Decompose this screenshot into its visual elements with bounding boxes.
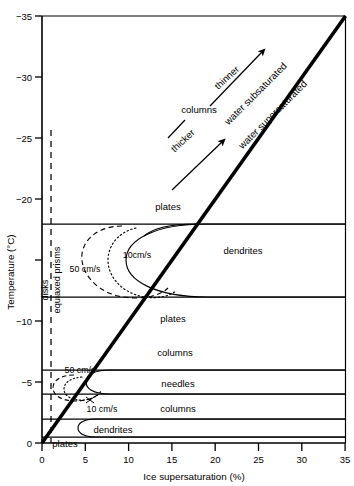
x-axis-title: Ice supersaturation (%) <box>143 471 244 482</box>
x-tick-label-15: 15 <box>167 454 178 465</box>
label-velocity-50-upper: 50 cm/s <box>70 264 101 274</box>
label-disks: disks <box>40 279 50 300</box>
label-columns-top: columns <box>181 104 217 115</box>
label-plates-mid: plates <box>160 313 186 324</box>
y-tick-label--25: −25 <box>16 133 32 144</box>
label-thicker: thicker <box>169 126 198 154</box>
plate-cap-upper <box>144 224 196 236</box>
chart-canvas: −35 −30 −25 −20 −10 −5 0 0 5 10 15 20 25 <box>0 0 354 486</box>
label-equiaxed-prisms: equiaxed prisms <box>52 246 62 313</box>
y-tick-label-0: 0 <box>27 438 32 449</box>
dendrite-lobe-upper <box>126 224 346 297</box>
label-dendrites-upper: dendrites <box>223 245 262 256</box>
label-plates-upper: plates <box>155 201 181 212</box>
label-velocity-10-lower: 10 cm/s <box>87 404 118 414</box>
label-columns-low: columns <box>160 403 196 414</box>
y-tick-label--30: −30 <box>16 72 32 83</box>
label-columns-mid: columns <box>157 347 193 358</box>
x-axis-ticks <box>42 443 345 451</box>
x-tick-label-30: 30 <box>297 454 308 465</box>
x-tick-label-20: 20 <box>210 454 221 465</box>
velocity-loops <box>53 226 176 403</box>
thickness-arrow <box>168 52 262 190</box>
velocity-loop-50-upper <box>82 226 168 298</box>
x-tick-label-35: 35 <box>340 454 351 465</box>
x-tick-label-5: 5 <box>83 454 88 465</box>
label-dendrites-low: dendrites <box>93 424 132 435</box>
y-tick-label--20: −20 <box>16 194 32 205</box>
label-plates-bottom: plates <box>52 438 78 449</box>
label-velocity-50-lower: 50 cm/s <box>65 365 96 375</box>
y-axis-ticks <box>35 16 42 443</box>
y-axis-title: Temperature (°C) <box>5 234 16 309</box>
snow-crystal-morphology-figure: −35 −30 −25 −20 −10 −5 0 0 5 10 15 20 25 <box>0 0 354 486</box>
label-velocity-10-upper: 10cm/s <box>123 250 152 260</box>
label-water-supersaturated: water supersaturated <box>235 78 309 152</box>
needle-lobe <box>86 370 346 394</box>
y-tick-label--10: −10 <box>16 316 32 327</box>
velocity-loop-10-upper <box>108 228 176 298</box>
habit-lobe-outlines <box>78 224 346 437</box>
y-axis-tick-labels: −35 −30 −25 −20 −10 −5 0 <box>16 11 32 449</box>
x-tick-label-25: 25 <box>253 454 264 465</box>
y-tick-label--35: −35 <box>16 11 32 22</box>
x-axis-tick-labels: 0 5 10 15 20 25 30 35 <box>39 454 350 465</box>
label-needles: needles <box>161 378 195 389</box>
x-tick-label-0: 0 <box>39 454 44 465</box>
x-tick-label-10: 10 <box>123 454 134 465</box>
y-tick-label--5: −5 <box>21 377 32 388</box>
